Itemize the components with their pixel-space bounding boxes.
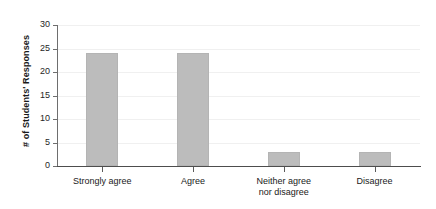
y-tick-label-container: 10 bbox=[0, 113, 50, 124]
y-tick-label-container: 30 bbox=[0, 19, 50, 30]
plot-area bbox=[57, 25, 420, 166]
y-tick-label-container: 20 bbox=[0, 66, 50, 77]
bar bbox=[177, 53, 209, 166]
x-tick-label-line: nor disagree bbox=[224, 187, 344, 198]
bar bbox=[268, 152, 300, 166]
y-tick-label: 30 bbox=[10, 19, 50, 29]
bar-chart: # of Students' Responses 051015202530 St… bbox=[0, 0, 436, 209]
y-tick-label-container: 0 bbox=[0, 160, 50, 171]
bar bbox=[86, 53, 118, 166]
x-tick-mark bbox=[102, 167, 103, 172]
y-tick-label-container: 5 bbox=[0, 137, 50, 148]
gridline bbox=[57, 49, 420, 50]
y-tick-label: 25 bbox=[10, 43, 50, 53]
bar bbox=[359, 152, 391, 166]
y-tick-label: 20 bbox=[10, 66, 50, 76]
x-tick-mark bbox=[284, 167, 285, 172]
x-axis-line bbox=[57, 166, 421, 167]
gridline bbox=[57, 25, 420, 26]
x-tick-label-line: Disagree bbox=[315, 176, 435, 187]
y-tick-label: 10 bbox=[10, 113, 50, 123]
y-tick-label-container: 15 bbox=[0, 90, 50, 101]
x-tick-mark bbox=[375, 167, 376, 172]
y-axis-line bbox=[57, 25, 58, 166]
y-tick-label: 5 bbox=[10, 137, 50, 147]
y-tick-label-container: 25 bbox=[0, 43, 50, 54]
x-tick-mark bbox=[193, 167, 194, 172]
y-tick-label: 15 bbox=[10, 90, 50, 100]
y-tick-label: 0 bbox=[10, 160, 50, 170]
x-tick-label: Disagree bbox=[315, 176, 435, 187]
